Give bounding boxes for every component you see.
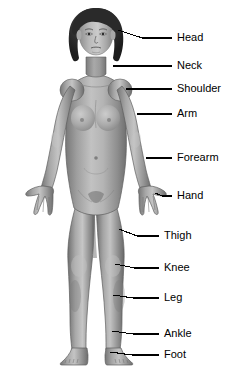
callout-shoulder[interactable]: Shoulder (126, 82, 221, 94)
pupil-left (88, 33, 91, 36)
legs-group (68, 205, 125, 350)
callout-neck[interactable]: Neck (113, 59, 203, 71)
hand-left (26, 186, 54, 215)
hand-right (138, 186, 166, 215)
feet-group (60, 348, 133, 365)
callout-knee[interactable]: Knee (115, 261, 190, 273)
label-ankle[interactable]: Ankle (164, 327, 192, 339)
foot-right (105, 348, 133, 365)
leg-left (68, 205, 95, 350)
label-knee[interactable]: Knee (164, 261, 190, 273)
label-arm[interactable]: Arm (177, 107, 197, 119)
human-figure (26, 8, 167, 365)
foot-left (60, 348, 88, 365)
callout-head[interactable]: Head (118, 30, 203, 43)
body-parts-diagram: HeadNeckShoulderArmForearmHandThighKneeL… (0, 0, 229, 368)
anatomy-illustration: HeadNeckShoulderArmForearmHandThighKneeL… (0, 0, 229, 368)
leader-line-thigh (119, 229, 159, 236)
callout-forearm[interactable]: Forearm (146, 151, 219, 163)
callout-ankle[interactable]: Ankle (112, 327, 192, 339)
knee-right-highlight (105, 255, 121, 277)
navel (94, 156, 98, 160)
label-shoulder[interactable]: Shoulder (177, 82, 221, 94)
label-neck[interactable]: Neck (177, 59, 203, 71)
label-leg[interactable]: Leg (164, 291, 182, 303)
knee-left-highlight (71, 255, 87, 277)
nipple-right (107, 118, 111, 122)
label-head[interactable]: Head (177, 31, 203, 43)
nipple-left (80, 118, 84, 122)
label-forearm[interactable]: Forearm (177, 151, 219, 163)
leg-right (96, 205, 124, 350)
neck (86, 57, 106, 77)
label-foot[interactable]: Foot (164, 348, 186, 360)
label-thigh[interactable]: Thigh (164, 229, 192, 241)
callout-arm[interactable]: Arm (137, 107, 197, 119)
label-hand[interactable]: Hand (177, 189, 203, 201)
calf-left-shade (69, 280, 81, 312)
pupil-right (102, 33, 105, 36)
leader-line-head (118, 30, 172, 38)
callout-thigh[interactable]: Thigh (119, 229, 192, 241)
breast-left (71, 105, 95, 131)
breast-right (96, 105, 120, 131)
